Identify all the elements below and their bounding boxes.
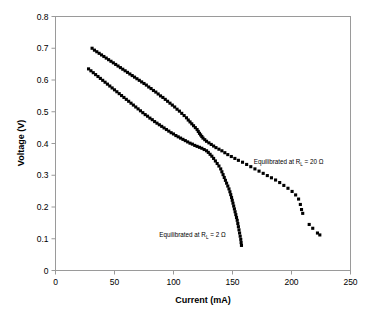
y-tick-label: 0.8: [37, 12, 49, 22]
chart-figure: 00.10.20.30.40.50.60.70.8 05010015020025…: [0, 0, 376, 313]
annotation-suffix: = 2 Ω: [208, 231, 225, 238]
data-point-marker: [300, 208, 303, 211]
x-tick-label: 100: [166, 277, 180, 287]
data-point-marker: [241, 161, 244, 164]
data-point-marker: [291, 190, 294, 193]
data-point-marker: [297, 198, 300, 201]
annotation-prefix: Equilibrated at R: [254, 158, 301, 166]
data-point-marker: [229, 193, 232, 196]
y-tick-label: 0.2: [37, 202, 49, 212]
data-point-marker: [217, 148, 220, 151]
data-point-marker: [223, 151, 226, 154]
data-point-marker: [228, 190, 231, 193]
data-point-marker: [274, 178, 277, 181]
data-point-marker: [236, 222, 239, 225]
data-point-marker: [224, 179, 227, 182]
y-tick-label: 0.6: [37, 75, 49, 85]
data-point-marker: [253, 167, 256, 170]
data-point-marker: [286, 187, 289, 190]
data-point-marker: [214, 146, 217, 149]
data-point-marker: [235, 216, 238, 219]
x-tick-label: 50: [110, 277, 120, 287]
data-point-marker: [270, 176, 273, 179]
data-point-marker: [240, 244, 243, 247]
data-point-marker: [278, 181, 281, 184]
data-point-marker: [318, 233, 321, 236]
x-tick-label: 0: [53, 277, 58, 287]
data-point-marker: [239, 235, 242, 238]
data-point-marker: [311, 227, 314, 230]
data-point-marker: [219, 167, 222, 170]
x-axis-title: Current (mA): [175, 295, 231, 305]
y-tick-label: 0.1: [37, 234, 49, 244]
data-point-marker: [220, 149, 223, 152]
data-point-marker: [299, 203, 302, 206]
data-point-marker: [230, 155, 233, 158]
data-point-marker: [222, 173, 225, 176]
data-point-marker: [237, 159, 240, 162]
y-tick-label: 0.5: [37, 107, 49, 117]
data-point-marker: [245, 163, 248, 166]
data-point-marker: [220, 170, 223, 173]
data-point-marker: [234, 213, 237, 216]
data-point-marker: [231, 199, 234, 202]
data-point-marker: [233, 157, 236, 160]
y-axis-title: Voltage (V): [16, 120, 26, 166]
data-point-marker: [308, 223, 311, 226]
annotation-suffix: = 20 Ω: [303, 158, 324, 165]
x-tick-label: 150: [225, 277, 239, 287]
x-tick-label: 250: [343, 277, 357, 287]
data-point-marker: [234, 210, 237, 213]
y-tick-label: 0.7: [37, 43, 49, 53]
data-point-marker: [231, 202, 234, 205]
data-point-marker: [238, 231, 241, 234]
chart-background: [0, 0, 376, 313]
data-point-marker: [249, 165, 252, 168]
data-point-marker: [258, 170, 261, 173]
annotation-prefix: Equilibrated at R: [159, 231, 206, 239]
data-point-marker: [226, 153, 229, 156]
data-point-marker: [240, 241, 243, 244]
x-tick-label: 200: [284, 277, 298, 287]
data-point-marker: [301, 212, 304, 215]
data-point-marker: [236, 219, 239, 222]
data-point-marker: [239, 238, 242, 241]
data-point-marker: [282, 184, 285, 187]
data-point-marker: [266, 174, 269, 177]
polarization-curve-chart: 00.10.20.30.40.50.60.70.8 05010015020025…: [0, 0, 376, 313]
y-tick-label: 0.3: [37, 170, 49, 180]
data-point-marker: [223, 176, 226, 179]
data-point-marker: [217, 164, 220, 167]
data-point-marker: [230, 196, 233, 199]
data-point-marker: [294, 193, 297, 196]
data-point-marker: [237, 225, 240, 228]
y-tick-label: 0.4: [37, 139, 49, 149]
data-point-marker: [226, 185, 229, 188]
data-point-marker: [232, 205, 235, 208]
data-point-marker: [237, 228, 240, 231]
y-tick-label: 0: [44, 266, 49, 276]
data-point-marker: [233, 207, 236, 210]
data-point-marker: [262, 172, 265, 175]
data-point-marker: [225, 182, 228, 185]
data-point-marker: [227, 187, 230, 190]
